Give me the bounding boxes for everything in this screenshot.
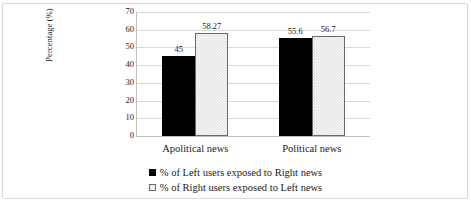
x-axis-category-label: Political news xyxy=(252,143,372,155)
y-axis-title: Percentage (%) xyxy=(44,0,54,90)
plot-area: 4558.2755.656.7 xyxy=(137,12,370,136)
y-axis-tick-label: 20 xyxy=(112,96,134,105)
y-axis-tick-label: 10 xyxy=(112,113,134,122)
bar-1-1[interactable] xyxy=(312,36,345,136)
chart-legend: % of Left users exposed to Right news% o… xyxy=(0,166,471,194)
legend-item-1[interactable]: % of Right users exposed to Left news xyxy=(149,181,322,194)
legend-swatch-icon xyxy=(149,184,156,191)
legend-label: % of Right users exposed to Left news xyxy=(160,181,322,194)
x-axis-category-label: Apolitical news xyxy=(135,143,255,155)
bar-value-label: 58.27 xyxy=(189,22,234,31)
legend-swatch-icon xyxy=(149,169,156,176)
bar-1-0[interactable] xyxy=(279,38,312,136)
y-axis-tick-label: 40 xyxy=(112,60,134,69)
y-axis-tick-label: 30 xyxy=(112,78,134,87)
figure-container: Percentage (%) 010203040506070 4558.2755… xyxy=(0,0,471,210)
y-axis-tick-label: 60 xyxy=(112,25,134,34)
x-axis-line xyxy=(137,136,370,137)
legend-item-0[interactable]: % of Left users exposed to Right news xyxy=(149,166,322,179)
bar-0-0[interactable] xyxy=(162,56,195,136)
bar-0-1[interactable] xyxy=(195,33,228,136)
gridline xyxy=(137,12,370,13)
y-axis-tick-label: 70 xyxy=(112,7,134,16)
legend-label: % of Left users exposed to Right news xyxy=(160,166,322,179)
y-axis-tick-label: 0 xyxy=(112,131,134,140)
bar-value-label: 56.7 xyxy=(306,25,351,34)
y-axis-tick-label: 50 xyxy=(112,42,134,51)
